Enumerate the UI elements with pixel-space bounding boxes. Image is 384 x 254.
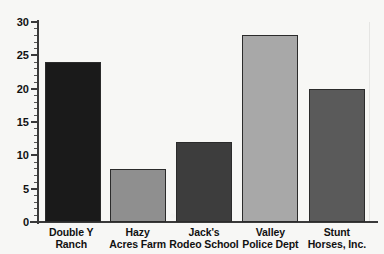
bar-slot bbox=[242, 22, 298, 222]
y-tick-label: 5 bbox=[3, 184, 29, 195]
y-tick-label: 15 bbox=[3, 117, 29, 128]
y-tick-label: 0 bbox=[3, 217, 29, 228]
y-tick-label: 20 bbox=[3, 84, 29, 95]
y-tick-label: 10 bbox=[3, 150, 29, 161]
bar-slot bbox=[110, 22, 166, 222]
category-label-line: Horses, Inc. bbox=[298, 238, 376, 250]
bar[interactable] bbox=[110, 169, 166, 222]
category-label-line: Stunt bbox=[298, 226, 376, 238]
bar[interactable] bbox=[309, 89, 365, 222]
bar-slot bbox=[309, 22, 365, 222]
plot-area bbox=[38, 22, 370, 222]
y-axis-tick-labels: 051015202530 bbox=[0, 0, 29, 254]
bar-slot bbox=[45, 22, 101, 222]
bar[interactable] bbox=[45, 62, 101, 222]
y-tick-label: 25 bbox=[3, 50, 29, 61]
bar[interactable] bbox=[176, 142, 232, 222]
bar[interactable] bbox=[242, 35, 298, 222]
y-tick-label: 30 bbox=[3, 17, 29, 28]
bar-chart: 051015202530 Double YRanchHazyAcres Farm… bbox=[0, 0, 384, 254]
bar-slot bbox=[176, 22, 232, 222]
category-label: StuntHorses, Inc. bbox=[298, 226, 376, 250]
